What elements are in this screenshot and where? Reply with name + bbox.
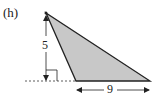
- base-label: 9: [106, 82, 114, 96]
- height-label: 5: [42, 38, 48, 52]
- apex-point: [45, 12, 48, 15]
- right-angle-marker: [46, 70, 57, 81]
- part-label: (h): [3, 5, 18, 21]
- triangle-diagram: [0, 0, 161, 100]
- shaded-triangle: [46, 13, 150, 81]
